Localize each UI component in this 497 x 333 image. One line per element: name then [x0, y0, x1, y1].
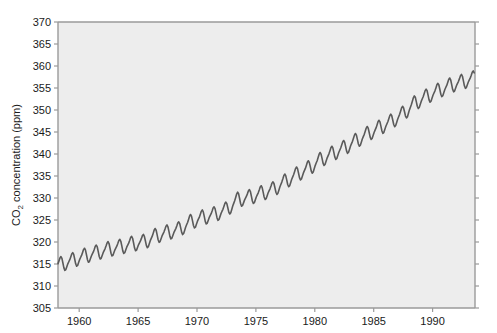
y-tick-label: 360	[33, 60, 51, 72]
y-tick-label: 320	[33, 236, 51, 248]
y-tick-label: 305	[33, 302, 51, 314]
y-tick-label: 335	[33, 170, 51, 182]
x-tick-label: 1965	[126, 315, 150, 327]
x-tick-label: 1970	[185, 315, 209, 327]
y-tick-label: 315	[33, 258, 51, 270]
y-tick-label: 310	[33, 280, 51, 292]
x-tick-label: 1975	[244, 315, 268, 327]
y-axis-title: CO2 concentration (ppm)	[10, 104, 25, 226]
y-tick-label: 345	[33, 126, 51, 138]
co2-concentration-line-chart[interactable]: 3053103153203253303353403453503553603653…	[0, 0, 497, 333]
y-tick-label: 365	[33, 38, 51, 50]
svg-text:CO2 concentration (ppm): CO2 concentration (ppm)	[10, 104, 25, 226]
x-tick-label: 1980	[303, 315, 327, 327]
y-tick-label: 340	[33, 148, 51, 160]
chart-figure: 3053103153203253303353403453503553603653…	[0, 0, 497, 333]
y-tick-label: 325	[33, 214, 51, 226]
y-axis-title-pre: CO	[10, 209, 22, 226]
y-tick-label: 350	[33, 104, 51, 116]
plot-area-background	[58, 22, 475, 308]
y-tick-label: 370	[33, 16, 51, 28]
y-tick-label: 330	[33, 192, 51, 204]
x-axis-tick-labels: 1960196519701975198019851990	[67, 315, 445, 327]
y-tick-label: 355	[33, 82, 51, 94]
x-tick-label: 1990	[420, 315, 444, 327]
x-tick-label: 1985	[361, 315, 385, 327]
y-axis-tick-labels: 3053103153203253303353403453503553603653…	[33, 16, 51, 314]
y-axis-title-post: concentration (ppm)	[10, 104, 22, 205]
x-tick-label: 1960	[67, 315, 91, 327]
